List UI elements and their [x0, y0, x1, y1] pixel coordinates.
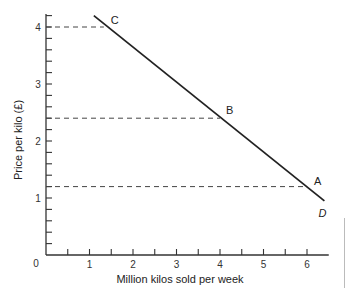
axis-ticks: 01234561234: [33, 16, 310, 270]
demand-curve: [94, 16, 325, 201]
x-tick-label: 5: [261, 259, 267, 270]
y-tick-label: 1: [35, 193, 41, 204]
point-label-b: B: [226, 104, 233, 116]
y-tick-label: 3: [35, 79, 41, 90]
x-axis-label: Million kilos sold per week: [116, 273, 244, 285]
y-tick-label: 2: [35, 136, 41, 147]
curve-label-d: D: [318, 207, 326, 219]
x-tick-label: 1: [87, 259, 93, 270]
x-tick-label: 4: [217, 259, 223, 270]
y-axis-label: Price per kilo (£): [12, 100, 24, 180]
reference-dashed-lines: [46, 27, 307, 187]
point-label-c: C: [111, 14, 119, 26]
point-label-a: A: [314, 175, 322, 187]
x-tick-label: 3: [174, 259, 180, 270]
demand-line: [94, 16, 325, 201]
demand-chart: 01234561234 CBAD Million kilos sold per …: [0, 0, 347, 296]
axes: [46, 14, 329, 255]
x-tick-label: 0: [33, 258, 39, 269]
x-tick-label: 2: [130, 259, 136, 270]
page-edge-line: [344, 218, 345, 288]
y-tick-label: 4: [35, 22, 41, 33]
x-tick-label: 6: [304, 259, 310, 270]
